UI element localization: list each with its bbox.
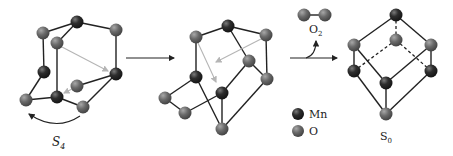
legend: Mn O [292, 108, 327, 138]
s4-label: S4 [52, 135, 65, 151]
o-atom [390, 34, 403, 47]
o2-label: O2 [309, 23, 323, 38]
o-atom [261, 73, 274, 86]
o-atom [20, 94, 33, 107]
mn-atom [71, 16, 84, 29]
legend-mn-label: Mn [309, 108, 327, 121]
o-atom [190, 31, 203, 44]
cluster-intermediate [159, 20, 274, 136]
o-atom [348, 39, 361, 52]
mn-atom [110, 68, 123, 81]
s0-atoms [348, 9, 438, 121]
o-atom [110, 24, 123, 37]
o-atom [77, 101, 90, 114]
o-atom [425, 39, 438, 52]
o2-release-arrow [306, 41, 316, 58]
rotation-arrow [29, 114, 80, 124]
o-atom [243, 55, 256, 68]
o-atom [319, 9, 332, 22]
mn-atom [216, 87, 229, 100]
legend-mn-swatch [292, 108, 304, 120]
mn-atom [380, 77, 393, 90]
o-atom [179, 107, 192, 120]
o-atom [260, 29, 273, 42]
cluster-s4: S4 [20, 16, 123, 152]
mn-atom [222, 20, 235, 33]
s4-hint-arrow [62, 47, 108, 71]
s0-label: S0 [380, 130, 392, 145]
o-atom [159, 92, 172, 105]
legend-o-swatch [292, 125, 304, 137]
o-atom [51, 37, 64, 50]
mn-atom [190, 71, 203, 84]
s0-bonds [354, 15, 431, 114]
o-atom [216, 123, 229, 136]
cluster-s0: S0 [348, 9, 438, 146]
legend-o-label: O [309, 125, 318, 138]
o2-molecule: O2 [298, 9, 332, 39]
mn-atom [348, 65, 361, 78]
mn-atom [425, 65, 438, 78]
o-atom [298, 9, 311, 22]
o-atom [380, 108, 393, 121]
o-atom [71, 80, 84, 93]
mn-atom [38, 66, 51, 79]
mn-atom [51, 91, 64, 104]
s-state-transition-diagram: S4 [0, 0, 453, 156]
s4-hint-arrow-short [64, 89, 72, 93]
o-atom [37, 27, 50, 40]
mn-atom [390, 9, 403, 22]
